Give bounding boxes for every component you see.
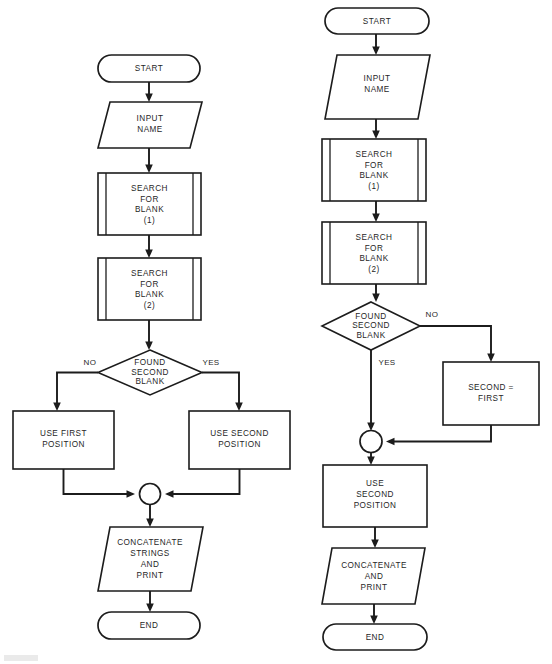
edge-left-first-merge: [64, 469, 136, 498]
node-right-input-name[interactable]: INPUT NAME: [325, 55, 430, 119]
node-label: SECOND: [131, 368, 169, 377]
edge-label-no: NO: [84, 358, 97, 367]
node-label: NAME: [137, 125, 163, 134]
flowchart-canvas: START INPUT NAME SEARCH FOR BLANK (1): [0, 0, 552, 664]
node-right-use-second-position[interactable]: USE SECOND POSITION: [323, 465, 427, 527]
predefined-process-shape: [322, 139, 426, 201]
node-label: SECOND: [356, 490, 394, 499]
node-left-merge-connector[interactable]: [140, 484, 161, 505]
predefined-process-shape: [98, 173, 201, 235]
node-left-use-first-position[interactable]: USE FIRST POSITION: [13, 411, 114, 469]
node-label: END: [140, 621, 159, 630]
edge-label-no: NO: [426, 310, 439, 319]
node-label: INPUT: [364, 74, 391, 83]
node-label: FOR: [365, 161, 384, 170]
node-label: SECOND =: [468, 383, 514, 392]
edge-left-decision-no: NO: [53, 358, 98, 411]
node-label: FOR: [140, 280, 159, 289]
node-label: FOUND: [134, 358, 165, 367]
node-label: AND: [141, 560, 160, 569]
edge-left-start-input: [145, 82, 153, 102]
node-left-start[interactable]: START: [98, 55, 200, 82]
node-label: FIRST: [478, 394, 504, 403]
input-output-shape: [98, 527, 203, 591]
node-left-use-second-position[interactable]: USE SECOND POSITION: [189, 411, 290, 469]
node-left-concatenate-print[interactable]: CONCATENATE STRINGS AND PRINT: [98, 527, 203, 591]
node-label: AND: [365, 572, 384, 581]
node-label: PRINT: [137, 571, 164, 580]
scan-smudge: [4, 655, 38, 661]
node-label: START: [363, 17, 391, 26]
node-label: CONCATENATE: [117, 538, 183, 547]
node-label: (2): [144, 301, 155, 310]
node-label: (2): [368, 265, 379, 274]
node-right-search-blank-2[interactable]: SEARCH FOR BLANK (2): [322, 222, 426, 284]
node-left-decision-found-second-blank[interactable]: FOUND SECOND BLANK: [98, 350, 202, 395]
node-label: FOR: [140, 195, 159, 204]
node-left-search-blank-2[interactable]: SEARCH FOR BLANK (2): [98, 258, 201, 320]
node-label: USE FIRST: [40, 429, 87, 438]
flowchart-figure: START INPUT NAME SEARCH FOR BLANK (1): [0, 0, 552, 664]
edge-right-merge-second: [367, 453, 375, 466]
node-label: POSITION: [354, 501, 397, 510]
node-label: (1): [368, 182, 379, 191]
edge-left-search1-search2: [145, 235, 153, 258]
node-label: SECOND: [352, 321, 390, 330]
edge-left-second-merge: [165, 469, 240, 498]
node-right-merge-connector[interactable]: [360, 431, 382, 453]
right-flowchart: START INPUT NAME SEARCH FOR BLANK (1): [322, 8, 539, 650]
node-label: BLANK: [135, 205, 164, 214]
edge-right-decision-yes: YES: [367, 350, 395, 431]
node-label: INPUT: [137, 114, 164, 123]
edge-right-start-input: [372, 34, 380, 55]
node-label: BLANK: [135, 290, 164, 299]
node-label: START: [135, 64, 163, 73]
node-label: BLANK: [356, 331, 385, 340]
node-label: USE SECOND: [210, 429, 269, 438]
node-label: SEARCH: [356, 233, 393, 242]
edge-right-concat-end: [370, 604, 378, 624]
node-label: FOUND: [355, 312, 386, 321]
node-right-search-blank-1[interactable]: SEARCH FOR BLANK (1): [322, 139, 426, 201]
node-left-search-blank-1[interactable]: SEARCH FOR BLANK (1): [98, 173, 201, 235]
connector-circle-shape: [360, 431, 382, 453]
node-label: SEARCH: [131, 269, 168, 278]
edge-right-input-search1: [372, 119, 380, 139]
node-label: END: [366, 633, 385, 642]
node-label: (1): [144, 216, 155, 225]
predefined-process-shape: [98, 258, 201, 320]
node-label: CONCATENATE: [341, 561, 407, 570]
edge-left-search2-decision: [145, 320, 153, 350]
node-label: NAME: [364, 85, 390, 94]
node-right-end[interactable]: END: [323, 624, 427, 650]
node-label: SEARCH: [356, 150, 393, 159]
edge-left-concat-end: [146, 591, 154, 612]
node-label: BLANK: [359, 254, 388, 263]
edge-right-search2-decision: [372, 284, 380, 302]
node-label: POSITION: [42, 440, 85, 449]
edge-left-merge-concat: [146, 505, 154, 528]
edge-label-yes: YES: [202, 358, 219, 367]
connector-circle-shape: [140, 484, 161, 505]
node-label: BLANK: [135, 377, 164, 386]
node-label: FOR: [365, 244, 384, 253]
node-right-start[interactable]: START: [325, 8, 429, 34]
node-label: SEARCH: [131, 184, 168, 193]
edge-left-input-search1: [145, 148, 153, 173]
node-right-concatenate-print[interactable]: CONCATENATE AND PRINT: [322, 548, 425, 604]
node-label: BLANK: [359, 171, 388, 180]
edge-right-decision-no: NO: [420, 310, 495, 362]
node-left-input-name[interactable]: INPUT NAME: [98, 102, 202, 148]
edge-left-decision-yes: YES: [202, 358, 243, 411]
node-left-end[interactable]: END: [98, 612, 200, 639]
edge-right-second-concat: [371, 527, 379, 548]
node-right-decision-found-second-blank[interactable]: FOUND SECOND BLANK: [322, 302, 420, 350]
node-label: PRINT: [361, 583, 388, 592]
left-flowchart: START INPUT NAME SEARCH FOR BLANK (1): [13, 55, 290, 639]
node-label: USE: [366, 479, 384, 488]
predefined-process-shape: [322, 222, 426, 284]
edge-right-assign-merge: [386, 425, 491, 445]
edge-right-search1-search2: [372, 201, 380, 222]
node-right-second-equals-first[interactable]: SECOND = FIRST: [443, 362, 539, 425]
node-label: POSITION: [218, 440, 261, 449]
